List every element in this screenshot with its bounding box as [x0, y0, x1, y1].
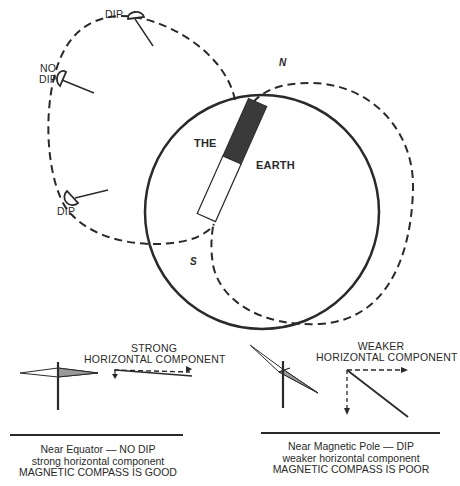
equator-vectors	[112, 366, 192, 379]
earth-label-earth: EARTH	[256, 160, 295, 171]
equator-caption-line3: MAGNETIC COMPASS IS GOOD	[10, 467, 186, 479]
earth-circle	[145, 95, 379, 329]
earth-label-the: THE	[194, 138, 217, 149]
no-dip-label-line2: DIP	[34, 74, 62, 85]
dip-label-top: DIP	[105, 9, 123, 20]
dip-needle-bottom	[64, 190, 108, 205]
diagram-canvas	[0, 0, 460, 486]
equator-caption: Near Equator — NO DIP strong horizontal …	[10, 444, 186, 479]
equator-vector-label: STRONG HORIZONTAL COMPONENT	[84, 343, 224, 365]
equator-compass	[20, 362, 98, 410]
pole-vectors	[344, 367, 408, 417]
south-pole-label: S	[190, 256, 197, 267]
no-dip-needle	[57, 71, 94, 93]
pole-caption: Near Magnetic Pole — DIP weaker horizont…	[262, 441, 440, 476]
pole-caption-line1: Near Magnetic Pole — DIP	[262, 441, 440, 453]
equator-vector-label-line2: HORIZONTAL COMPONENT	[84, 354, 224, 365]
equator-caption-line1: Near Equator — NO DIP	[10, 444, 186, 456]
pole-vector-label: WEAKER HORIZONTAL COMPONENT	[316, 341, 446, 363]
dip-needle-top	[128, 12, 153, 46]
north-pole-label: N	[279, 57, 286, 68]
magnet-south-half	[197, 156, 241, 222]
no-dip-label: NO DIP	[34, 63, 62, 85]
magnet-north-half	[223, 98, 267, 164]
pole-compass	[250, 345, 318, 408]
pole-vector-label-line2: HORIZONTAL COMPONENT	[316, 352, 446, 363]
pole-caption-line3: MAGNETIC COMPASS IS POOR	[262, 464, 440, 476]
dip-label-bottom: DIP	[57, 206, 75, 217]
